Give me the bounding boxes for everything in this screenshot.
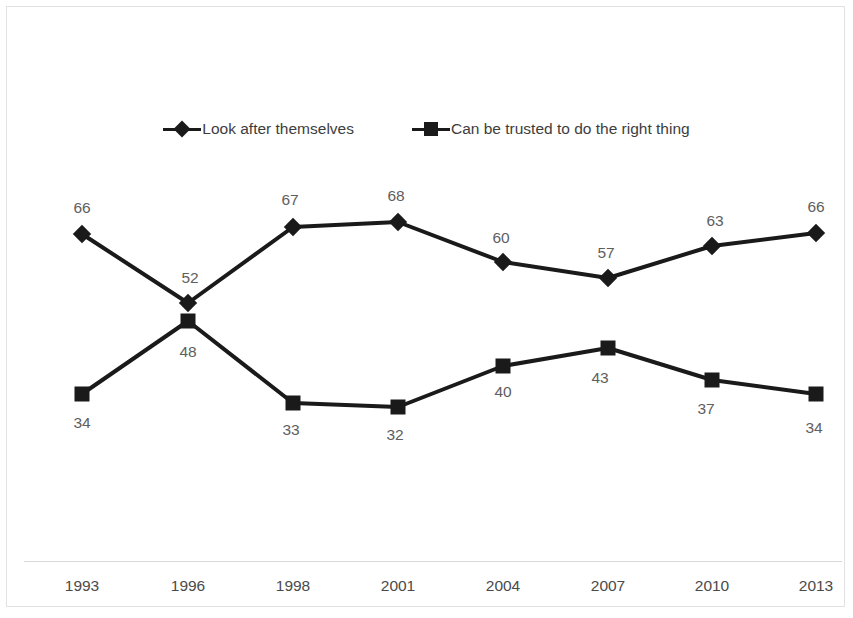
series-lines <box>0 0 853 618</box>
data-point-label: 52 <box>181 270 198 286</box>
data-point-label: 34 <box>73 415 90 431</box>
data-point-marker <box>601 341 616 356</box>
series-line-1 <box>82 222 816 303</box>
x-tick-label-1993: 1993 <box>65 578 99 594</box>
data-point-marker <box>286 396 301 411</box>
x-tick-label-2004: 2004 <box>486 578 520 594</box>
data-point-label: 66 <box>807 199 824 215</box>
data-point-label: 67 <box>281 192 298 208</box>
data-point-label: 66 <box>73 200 90 216</box>
data-point-label: 34 <box>805 420 822 436</box>
data-point-label: 33 <box>282 422 299 438</box>
x-axis-tick-labels: 19931996199820012004200720102013 <box>0 578 853 602</box>
data-point-marker <box>75 387 90 402</box>
x-axis-line <box>24 561 842 562</box>
data-point-marker <box>809 387 824 402</box>
data-point-label: 40 <box>494 384 511 400</box>
plot-area: 66526768605763663448333240433734 <box>0 0 853 618</box>
series-line-2 <box>82 321 816 407</box>
data-point-marker <box>391 400 406 415</box>
data-point-label: 37 <box>697 401 714 417</box>
data-point-label: 32 <box>386 427 403 443</box>
x-tick-label-2013: 2013 <box>799 578 833 594</box>
data-point-label: 60 <box>492 230 509 246</box>
x-tick-label-2007: 2007 <box>591 578 625 594</box>
data-point-marker <box>496 359 511 374</box>
data-point-label: 63 <box>706 213 723 229</box>
data-point-label: 57 <box>597 245 614 261</box>
data-point-label: 43 <box>591 370 608 386</box>
data-point-label: 48 <box>179 344 196 360</box>
data-point-label: 68 <box>387 188 404 204</box>
data-point-marker <box>705 373 720 388</box>
x-tick-label-2010: 2010 <box>695 578 729 594</box>
x-tick-label-1996: 1996 <box>171 578 205 594</box>
chart-container: Look after themselves Can be trusted to … <box>0 0 853 618</box>
data-point-marker <box>181 314 196 329</box>
x-tick-label-1998: 1998 <box>276 578 310 594</box>
x-tick-label-2001: 2001 <box>381 578 415 594</box>
